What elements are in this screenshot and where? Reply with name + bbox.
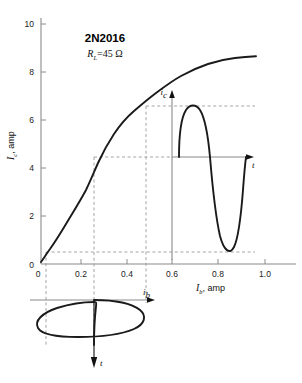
inset-ib-subscript: b: [146, 290, 151, 300]
y-axis-title: Ic, amp: [5, 131, 18, 161]
inset-ic-time-label: t: [252, 160, 255, 170]
construction-lines: [46, 106, 255, 345]
figure-canvas: 0 0.2 0.4 0.6 0.8 1.0 0 2 4 6 8 10 Ic, a…: [0, 0, 302, 383]
svg-text:Ic, amp: Ic, amp: [5, 131, 18, 161]
input-waveform-inset: ib t: [30, 287, 155, 368]
x-axis-ticks: [81, 259, 265, 264]
load-resistance-symbol: R: [86, 48, 93, 59]
inset-ic-axis-label: ic: [160, 87, 167, 100]
y-tick-label-6: 6: [29, 115, 34, 125]
output-waveform-curve: [179, 106, 246, 252]
x-axis-title: Ib, amp: [195, 282, 225, 295]
input-waveform-curve: [37, 300, 144, 345]
x-axis-unit: , amp: [203, 283, 226, 293]
load-resistance-value: =45 Ω: [97, 48, 123, 59]
x-tick-label-3: 0.6: [166, 269, 178, 279]
y-tick-label-4: 4: [29, 163, 34, 173]
y-axis-ticks: [41, 24, 46, 216]
inset-ic-axis-arrow: [169, 90, 175, 98]
transistor-transfer-characteristic-figure: 0 0.2 0.4 0.6 0.8 1.0 0 2 4 6 8 10 Ic, a…: [0, 0, 302, 383]
inset-ic-subscript: c: [163, 90, 167, 100]
transfer-characteristic-curve: [41, 56, 256, 262]
x-tick-label-0: 0: [36, 269, 41, 279]
inset-ib-time-arrow: [91, 357, 97, 368]
y-tick-label-2: 2: [29, 211, 34, 221]
y-tick-label-0: 0: [29, 260, 34, 270]
inset-ib-axis-label: ib: [143, 287, 151, 300]
x-tick-label-5: 1.0: [259, 269, 271, 279]
x-tick-label-2: 0.4: [121, 269, 133, 279]
inset-ib-time-label: t: [100, 358, 103, 368]
svg-text:Ib, amp: Ib, amp: [195, 282, 225, 295]
x-tick-label-4: 0.8: [212, 269, 224, 279]
y-tick-label-10: 10: [25, 19, 35, 29]
x-tick-label-1: 0.2: [75, 269, 87, 279]
device-name-label: 2N2016: [85, 32, 125, 44]
y-tick-label-8: 8: [29, 67, 34, 77]
inset-ic-time-arrow: [246, 154, 254, 160]
load-resistance-label: RL=45 Ω: [86, 48, 122, 61]
y-axis-unit: , amp: [6, 131, 16, 154]
output-waveform-inset: ic t: [160, 87, 255, 260]
